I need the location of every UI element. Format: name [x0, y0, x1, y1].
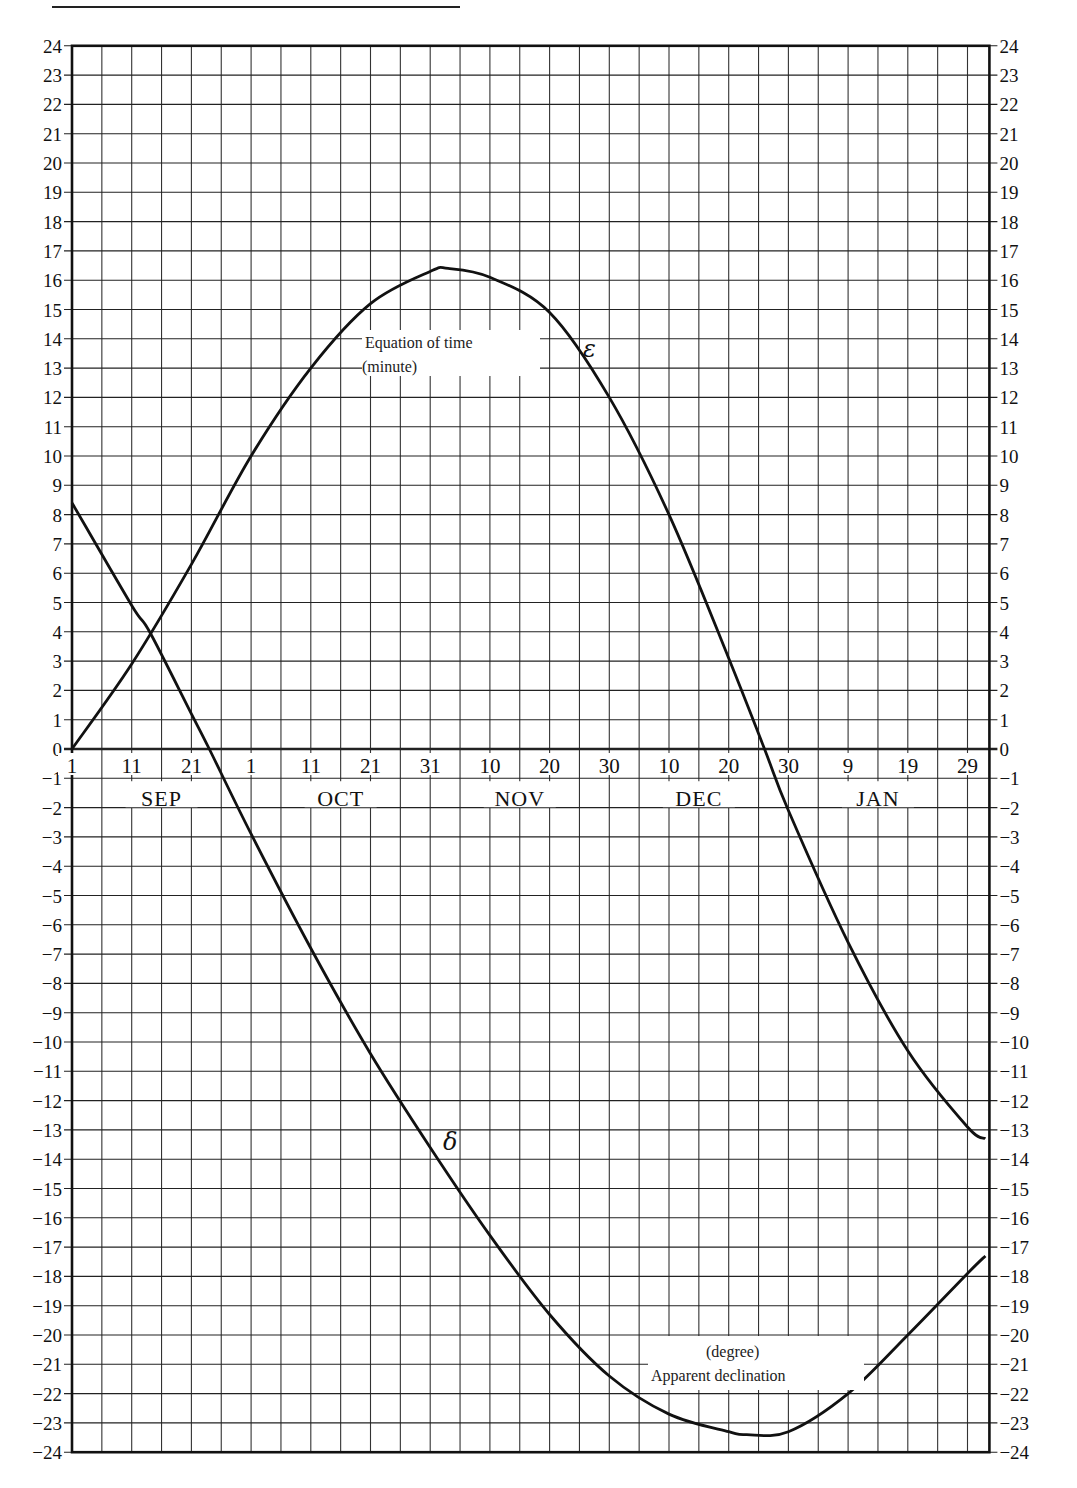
y-tick-label-right: −16 — [999, 1208, 1029, 1229]
y-tick-label-left: −17 — [32, 1237, 62, 1258]
y-tick-label-right: 15 — [999, 300, 1018, 321]
equation-of-time-declination-chart: −24−24−23−23−22−22−21−21−20−20−19−19−18−… — [0, 0, 1077, 1488]
y-tick-label-right: −13 — [999, 1120, 1029, 1141]
y-tick-label-left: 7 — [53, 534, 63, 555]
y-tick-label-left: 3 — [53, 651, 63, 672]
y-tick-label-right: −21 — [999, 1354, 1029, 1375]
y-tick-label-left: −23 — [32, 1413, 62, 1434]
y-tick-label-left: −16 — [32, 1208, 62, 1229]
y-tick-label-left: 1 — [53, 710, 63, 731]
y-tick-label-left: −5 — [42, 886, 62, 907]
y-tick-label-left: −8 — [42, 973, 62, 994]
y-tick-label-left: 20 — [43, 153, 62, 174]
x-tick-label: 9 — [843, 754, 854, 778]
y-tick-label-right: −1 — [999, 768, 1019, 789]
y-tick-label-right: 4 — [999, 622, 1009, 643]
y-tick-label-right: −17 — [999, 1237, 1029, 1258]
y-tick-label-right: −2 — [999, 798, 1019, 819]
y-tick-label-left: −12 — [32, 1091, 62, 1112]
y-tick-label-right: −5 — [999, 886, 1019, 907]
y-tick-label-right: 6 — [999, 563, 1009, 584]
y-tick-label-right: −7 — [999, 944, 1019, 965]
y-tick-label-left: 4 — [53, 622, 63, 643]
y-tick-label-left: 13 — [43, 358, 62, 379]
y-tick-label-left: 6 — [53, 563, 63, 584]
y-tick-label-left: 9 — [53, 475, 63, 496]
y-tick-label-right: 0 — [999, 739, 1009, 760]
y-tick-label-right: 22 — [999, 94, 1018, 115]
y-tick-label-right: −18 — [999, 1266, 1029, 1287]
y-tick-label-right: 13 — [999, 358, 1018, 379]
y-tick-label-right: −8 — [999, 973, 1019, 994]
y-tick-label-right: 7 — [999, 534, 1009, 555]
y-tick-label-left: −15 — [32, 1179, 62, 1200]
x-tick-label: 30 — [778, 754, 799, 778]
y-tick-label-left: 12 — [43, 387, 62, 408]
x-tick-label: 31 — [420, 754, 441, 778]
y-tick-label-left: −24 — [32, 1442, 62, 1463]
y-tick-label-left: 10 — [43, 446, 62, 467]
y-tick-label-right: 20 — [999, 153, 1018, 174]
x-tick-label: 20 — [539, 754, 560, 778]
chart-grid — [64, 46, 997, 1452]
month-label: OCT — [317, 786, 364, 811]
y-tick-label-right: 2 — [999, 680, 1009, 701]
y-tick-label-right: 5 — [999, 593, 1009, 614]
y-tick-label-right: 17 — [999, 241, 1018, 262]
y-tick-label-left: 15 — [43, 300, 62, 321]
y-tick-label-left: −20 — [32, 1325, 62, 1346]
y-tick-label-left: −18 — [32, 1266, 62, 1287]
y-tick-label-right: −9 — [999, 1003, 1019, 1024]
x-tick-label: 11 — [122, 754, 142, 778]
y-tick-label-left: 24 — [43, 36, 63, 57]
y-tick-label-right: 16 — [999, 270, 1018, 291]
y-tick-label-right: 12 — [999, 387, 1018, 408]
x-tick-label: 1 — [67, 754, 78, 778]
y-tick-label-left: −7 — [42, 944, 62, 965]
y-tick-label-right: −19 — [999, 1296, 1029, 1317]
y-tick-label-right: −14 — [999, 1149, 1029, 1170]
dec-label-line2: Apparent declination — [651, 1367, 786, 1385]
y-tick-label-left: 22 — [43, 94, 62, 115]
y-tick-label-left: −19 — [32, 1296, 62, 1317]
y-tick-label-left: −21 — [32, 1354, 62, 1375]
month-label: SEP — [141, 786, 182, 811]
y-tick-label-left: 14 — [43, 329, 63, 350]
y-tick-label-left: 18 — [43, 212, 62, 233]
dec-label-line1: (degree) — [706, 1343, 759, 1361]
y-tick-label-left: 11 — [44, 417, 62, 438]
y-tick-label-right: 24 — [999, 36, 1019, 57]
y-tick-label-right: 10 — [999, 446, 1018, 467]
y-tick-label-left: 2 — [53, 680, 63, 701]
y-tick-label-right: 14 — [999, 329, 1019, 350]
y-tick-label-right: −15 — [999, 1179, 1029, 1200]
eot-label-line1: Equation of time — [365, 334, 473, 352]
y-tick-label-right: −22 — [999, 1384, 1029, 1405]
y-tick-label-left: −4 — [42, 856, 63, 877]
y-tick-label-right: 23 — [999, 65, 1018, 86]
y-tick-label-right: 8 — [999, 505, 1009, 526]
y-tick-label-left: 5 — [53, 593, 63, 614]
y-tick-label-left: 23 — [43, 65, 62, 86]
y-tick-label-right: 11 — [999, 417, 1017, 438]
y-tick-label-left: −2 — [42, 798, 62, 819]
y-tick-label-right: −24 — [999, 1442, 1029, 1463]
y-tick-label-left: 17 — [43, 241, 62, 262]
x-tick-label: 20 — [718, 754, 739, 778]
y-tick-label-left: 8 — [53, 505, 63, 526]
x-tick-label: 11 — [301, 754, 321, 778]
month-label: JAN — [856, 786, 899, 811]
y-tick-label-right: −12 — [999, 1091, 1029, 1112]
y-tick-label-right: −20 — [999, 1325, 1029, 1346]
y-tick-label-left: −9 — [42, 1003, 62, 1024]
y-tick-label-right: −6 — [999, 915, 1019, 936]
x-tick-label: 10 — [659, 754, 680, 778]
y-tick-label-left: 21 — [43, 124, 62, 145]
epsilon-symbol: ε — [583, 335, 596, 363]
y-tick-label-left: 16 — [43, 270, 62, 291]
x-tick-label: 1 — [246, 754, 257, 778]
y-tick-label-right: −3 — [999, 827, 1019, 848]
y-tick-label-left: 19 — [43, 182, 62, 203]
y-tick-label-right: −23 — [999, 1413, 1029, 1434]
y-tick-label-left: −3 — [42, 827, 62, 848]
